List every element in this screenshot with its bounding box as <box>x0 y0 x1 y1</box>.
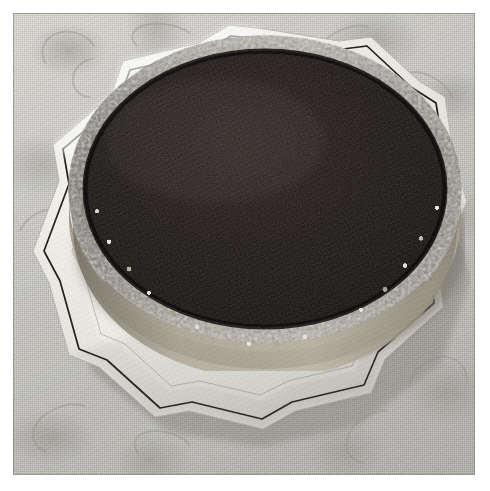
plate-shape-label: scalloped octagonal <box>0 0 1 1</box>
photo-subject: chocolate-cake-on-plate <box>0 0 1 1</box>
photo-stage: Round chocolate cake with dark cocoa-dus… <box>0 0 490 491</box>
chocolate-cake-shape <box>65 31 465 371</box>
photograph <box>13 13 475 475</box>
cake-top-sheen <box>105 79 325 203</box>
margin-label: white photo margin <box>0 0 1 1</box>
cake-top-label: cocoa glazed top <box>0 0 1 1</box>
cake-side-label: chopped nut crust <box>0 0 1 1</box>
chocolate-cake <box>65 31 465 371</box>
photo-caption: Round chocolate cake with dark cocoa-dus… <box>0 0 1 1</box>
background-label: floral scroll damask <box>0 0 1 1</box>
